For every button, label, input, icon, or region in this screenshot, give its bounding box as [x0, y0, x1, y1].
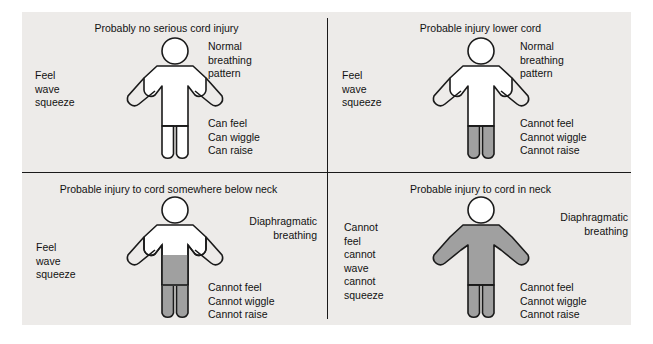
quadrant-top-left: Probably no serious cord injury Normal b…: [22, 12, 327, 172]
upper-limb-note: Feel wave squeeze: [36, 241, 76, 282]
body-figure: [110, 193, 240, 328]
quadrant-bottom-left: Probable injury to cord somewhere below …: [22, 173, 327, 333]
upper-limb-note: Feel wave squeeze: [35, 69, 75, 110]
quadrant-title: Probably no serious cord injury: [14, 22, 319, 34]
body-figure: [110, 34, 240, 169]
quadrant-top-right: Probable injury lower cord Normal breath…: [328, 12, 633, 172]
body-figure: [416, 34, 546, 169]
upper-limb-note: Cannot feel cannot wave cannot squeeze: [344, 221, 384, 302]
body-figure: [416, 193, 546, 328]
diagram-panel: Probably no serious cord injury Normal b…: [22, 12, 631, 325]
quadrant-bottom-right: Probable injury to cord in neck Diaphrag…: [328, 173, 633, 333]
quadrant-title: Probable injury lower cord: [328, 22, 633, 34]
upper-limb-note: Feel wave squeeze: [342, 69, 382, 110]
